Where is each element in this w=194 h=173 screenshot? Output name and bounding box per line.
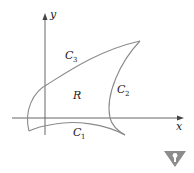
- x-axis: [12, 116, 184, 121]
- svg-text:1: 1: [81, 133, 85, 141]
- warning-triangle-icon: [164, 151, 186, 167]
- svg-text:2: 2: [125, 90, 129, 98]
- label-c1: C 1: [73, 126, 85, 141]
- x-axis-label: x: [176, 120, 183, 133]
- svg-text:3: 3: [73, 56, 77, 64]
- label-c3: C 3: [65, 49, 77, 64]
- label-c2: C 2: [117, 83, 129, 98]
- region-diagram: y x R C 3 C 2 C 1: [0, 0, 194, 173]
- y-axis-label: y: [49, 8, 57, 21]
- y-axis: [43, 13, 48, 135]
- region-label: R: [72, 89, 81, 102]
